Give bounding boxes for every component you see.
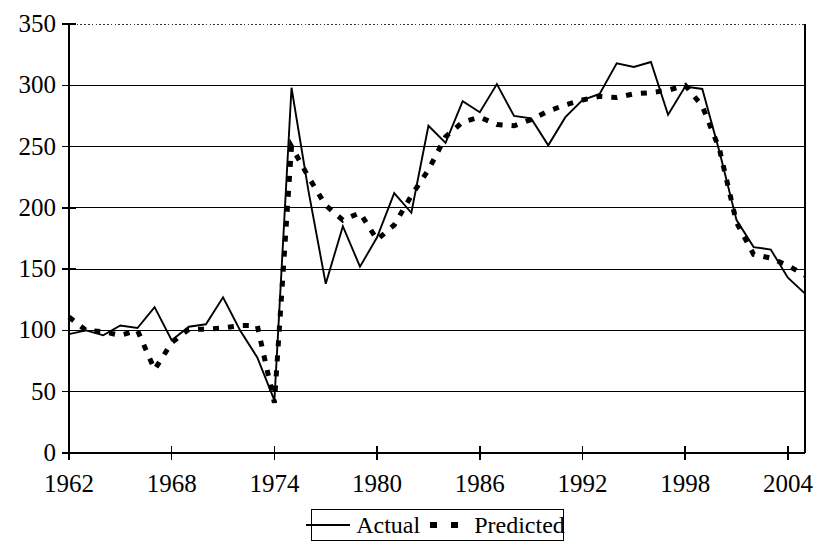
y-axis-label: 200 xyxy=(19,195,57,220)
x-axis-label: 1962 xyxy=(29,471,109,496)
x-axis-label: 1986 xyxy=(440,471,520,496)
legend-label-predicted: Predicted xyxy=(468,513,569,537)
y-axis-label: 250 xyxy=(19,134,57,159)
y-axis-label: 300 xyxy=(19,72,57,97)
y-axis-label: 150 xyxy=(19,256,57,281)
x-axis-label: 1974 xyxy=(234,471,314,496)
line-predicted xyxy=(69,85,805,402)
y-axis-label: 50 xyxy=(31,379,56,404)
x-axis-label: 1968 xyxy=(132,471,212,496)
legend-label-actual: Actual xyxy=(350,513,424,537)
series-line-predicted xyxy=(69,85,805,402)
legend-swatch-dotted-icon xyxy=(424,522,468,528)
x-axis-label: 2004 xyxy=(748,471,819,496)
series-line-actual xyxy=(69,62,805,400)
legend-swatch-solid-icon xyxy=(306,524,350,526)
x-axis-label: 1998 xyxy=(645,471,725,496)
y-axis-label: 350 xyxy=(19,11,57,36)
y-axis-label: 100 xyxy=(19,317,57,342)
chart-container: 050100150200250300350 196219681974198019… xyxy=(0,0,819,554)
x-axis-label: 1992 xyxy=(542,471,622,496)
y-axis-label: 0 xyxy=(44,440,57,465)
line-actual xyxy=(69,62,805,400)
legend-entry-predicted: Predicted xyxy=(424,513,569,537)
chart-legend: Actual Predicted xyxy=(311,509,564,541)
legend-entry-actual: Actual xyxy=(306,513,424,537)
x-axis-label: 1980 xyxy=(337,471,417,496)
